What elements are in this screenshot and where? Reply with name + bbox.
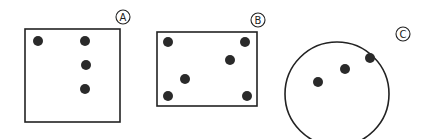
label-text: A: [120, 12, 127, 23]
figure-label-a: A: [116, 10, 130, 24]
label-text: B: [255, 15, 262, 26]
figure-label-b: B: [251, 13, 265, 27]
figure-c: C: [285, 27, 410, 139]
dot: [33, 36, 43, 46]
figure-label-c: C: [396, 27, 410, 41]
dot: [240, 37, 250, 47]
dot: [163, 91, 173, 101]
dot: [180, 74, 190, 84]
dot: [163, 37, 173, 47]
dot: [81, 60, 91, 70]
dot: [365, 53, 375, 63]
diagram-canvas: A B C: [0, 0, 431, 139]
figure-b: B: [157, 13, 265, 106]
dot: [80, 36, 90, 46]
figure-a: A: [25, 10, 130, 122]
dot: [313, 77, 323, 87]
dot: [80, 84, 90, 94]
dot: [242, 91, 252, 101]
label-text: C: [400, 29, 407, 40]
dot: [225, 55, 235, 65]
dot: [340, 64, 350, 74]
